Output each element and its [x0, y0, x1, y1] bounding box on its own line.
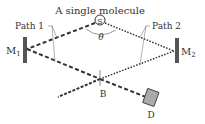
angle-label: θ — [98, 32, 104, 42]
path-1-beam — [27, 23, 146, 97]
output-beam — [58, 79, 100, 97]
path-1-leader — [48, 26, 57, 62]
detector-label: D — [147, 110, 154, 120]
path-2-beam — [100, 23, 174, 79]
path-1-label: Path 1 — [15, 21, 44, 31]
mirror-m2 — [175, 38, 179, 63]
mirror-m1 — [23, 37, 27, 63]
beam-splitter-label: B — [100, 89, 107, 99]
title-label: A single molecule — [54, 5, 145, 16]
interferometer-diagram: A single molecule M1 M2 S θ Path 1 Path … — [0, 0, 205, 124]
diagram-canvas: A single molecule M1 M2 S θ Path 1 Path … — [0, 0, 205, 124]
path-2-label: Path 2 — [152, 21, 181, 31]
mirror-m1-label: M1 — [6, 45, 21, 58]
mirror-m2-label: M2 — [181, 46, 196, 59]
path-2-leader — [140, 26, 150, 64]
source-label: S — [97, 17, 102, 26]
detector-icon — [143, 88, 159, 106]
